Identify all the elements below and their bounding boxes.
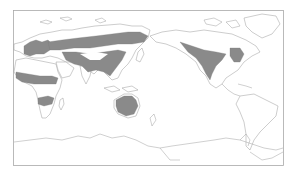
- arctic-islands-west: [40, 17, 106, 24]
- landmass-south-america: [236, 94, 278, 150]
- landmass-new-zealand: [150, 114, 156, 126]
- landmass-indonesia: [104, 86, 138, 92]
- landmass-madagascar: [59, 98, 64, 110]
- landmass-greenland: [244, 14, 280, 38]
- arctic-archipelago: [204, 18, 240, 28]
- central-america: [222, 84, 240, 96]
- antarctica-coast: [14, 134, 283, 150]
- map-svg: [0, 0, 296, 179]
- caribbean: [238, 84, 252, 88]
- world-map: [0, 0, 296, 179]
- antarctica-west: [160, 148, 180, 160]
- landmass-africa: [14, 58, 62, 118]
- antarctica-east: [250, 152, 283, 160]
- landmass-japan: [136, 48, 144, 62]
